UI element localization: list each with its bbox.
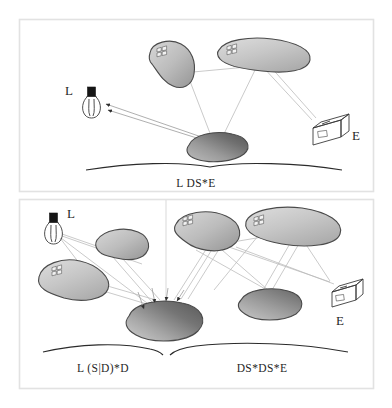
path-expression-top: L DS*E (176, 177, 215, 189)
path-expression-bottom-right: DS*DS*E (237, 362, 288, 374)
eye-label-top: E (352, 128, 360, 143)
path-expression-bottom-left: L (S|D)*D (77, 362, 129, 375)
eye-label-bottom: E (336, 313, 344, 328)
specular-surface-blob (126, 301, 203, 341)
light-label-bottom: L (67, 206, 75, 221)
specular-surface-blob (238, 289, 301, 320)
top-panel-frame (20, 20, 374, 192)
light-label-top: L (65, 83, 73, 98)
figure-root: L E L DS*E (0, 0, 392, 408)
light-transport-diagram: L E L DS*E (0, 0, 392, 408)
diffuse-surface-blob (96, 229, 149, 259)
